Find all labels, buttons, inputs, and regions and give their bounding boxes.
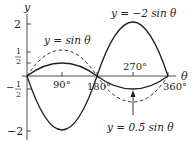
annotation-sin: y = sin θ <box>43 34 91 46</box>
theta-tick-label-180: 180° <box>87 81 111 92</box>
theta-ticks <box>62 72 168 76</box>
y-tick-label-2: 2 <box>14 18 21 31</box>
sine-amplitude-chart: y θ 2 1 2 − 1 2 −2 90° 180° 270° 360° y … <box>0 0 194 146</box>
y-tick-label-1: 1 <box>16 47 21 56</box>
arrow-up-icon <box>131 90 136 97</box>
y-tick-label-half-den: 2 <box>16 57 21 66</box>
y-axis-label: y <box>23 1 31 14</box>
y-tick-label-neg-half-num: 1 <box>16 80 21 89</box>
annotation-neg2-sin: y = −2 sin θ <box>110 7 177 19</box>
y-tick-label-neg2: −2 <box>7 125 23 138</box>
y-tick-label-neg-half-den: 2 <box>16 90 21 99</box>
theta-tick-label-90: 90° <box>53 79 71 90</box>
annotation-half-sin: y = 0.5 sin θ <box>106 121 174 133</box>
y-tick-label-neg-sign: − <box>6 82 14 93</box>
theta-tick-label-360: 360° <box>163 81 187 92</box>
theta-tick-label-270: 270° <box>123 61 147 72</box>
